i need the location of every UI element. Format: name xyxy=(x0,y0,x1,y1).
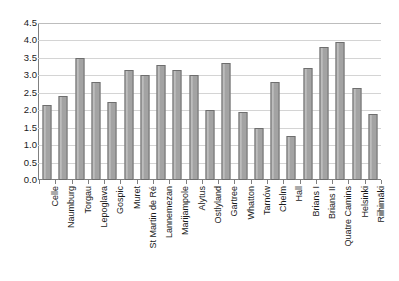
x-axis-tick xyxy=(39,180,40,184)
x-axis-tick-label: Gartree xyxy=(230,186,239,217)
x-axis-tick-label: Tarnów xyxy=(263,186,272,215)
y-axis-tick-label: 0.0 xyxy=(3,175,37,185)
x-axis-tick-label: Ostlyland xyxy=(214,186,223,224)
bar[interactable] xyxy=(368,114,377,180)
x-axis-tick xyxy=(332,180,333,184)
bar-slot xyxy=(218,23,234,180)
bar[interactable] xyxy=(205,110,214,180)
x-axis-tick-label: Riihimäki xyxy=(377,186,386,223)
bar-slot xyxy=(186,23,202,180)
bar[interactable] xyxy=(75,58,84,180)
x-axis-tick-label: Lepoglava xyxy=(100,186,109,228)
x-axis-tick-labels: CelleNaumburgTorgauLepoglavaGospicMuretS… xyxy=(39,186,381,281)
bar-slot xyxy=(39,23,55,180)
bar[interactable] xyxy=(108,102,117,181)
x-axis-tick xyxy=(218,180,219,184)
x-axis-tick-label-text: Hall xyxy=(295,186,304,202)
x-axis-tick-label-text: Helsinki xyxy=(361,186,370,218)
x-axis-tick xyxy=(365,180,366,184)
bar[interactable] xyxy=(91,82,100,180)
bar-slot xyxy=(300,23,316,180)
x-axis-tick-label-text: Quatre Camins xyxy=(344,186,353,247)
bar[interactable] xyxy=(173,70,182,180)
x-axis-tick-label-text: St Martin de Ré xyxy=(149,186,158,249)
bar-slot xyxy=(234,23,250,180)
x-axis-tick-label: Quatre Camins xyxy=(344,186,353,247)
bars-layer xyxy=(39,23,381,180)
x-axis-tick xyxy=(120,180,121,184)
x-axis-tick xyxy=(169,180,170,184)
x-axis-tick-label-text: Gospic xyxy=(116,186,125,214)
x-axis-tick-label: Helsinki xyxy=(361,186,370,218)
y-axis-tick-label: 3.0 xyxy=(3,71,37,81)
x-axis-tick-label: Marijampole xyxy=(181,186,190,235)
bar[interactable] xyxy=(124,70,133,180)
x-axis-tick-label-text: Ostlyland xyxy=(214,186,223,224)
x-axis-tick xyxy=(283,180,284,184)
bar[interactable] xyxy=(43,105,52,180)
bar-slot xyxy=(104,23,120,180)
x-axis-tick xyxy=(186,180,187,184)
bar-slot xyxy=(55,23,71,180)
x-axis-tick-label: Celle xyxy=(51,186,60,207)
bar[interactable] xyxy=(287,136,296,180)
bar-slot xyxy=(120,23,136,180)
bar-chart: 0.00.51.01.52.02.53.03.54.04.5 CelleNaum… xyxy=(0,0,399,281)
y-axis-tick-label: 1.5 xyxy=(3,123,37,133)
x-axis-tick-label-text: Lannemezan xyxy=(165,186,174,238)
bar[interactable] xyxy=(352,88,361,180)
bar[interactable] xyxy=(222,63,231,180)
x-axis-tick xyxy=(267,180,268,184)
x-axis-tick-label: Lannemezan xyxy=(165,186,174,238)
x-axis-tick xyxy=(55,180,56,184)
x-axis-tick-label-text: Chelm xyxy=(279,186,288,212)
x-axis-tick-label-text: Whatton xyxy=(247,186,256,220)
x-axis-tick-label: Hall xyxy=(295,186,304,202)
x-axis-tick-label-text: Riihimäki xyxy=(377,186,386,223)
y-axis-tick-label: 4.5 xyxy=(3,18,37,28)
x-axis-tick-label-text: Brians II xyxy=(328,186,337,219)
x-axis-tick-label-text: Torgau xyxy=(84,186,93,214)
x-axis-tick xyxy=(381,180,382,184)
x-axis-tick-label-text: Marijampole xyxy=(181,186,190,235)
bar-slot xyxy=(251,23,267,180)
x-axis-tick-label: Brians II xyxy=(328,186,337,219)
x-axis-tick xyxy=(72,180,73,184)
y-axis-tick-label: 2.0 xyxy=(3,105,37,115)
bar[interactable] xyxy=(157,65,166,180)
bar-slot xyxy=(365,23,381,180)
bar[interactable] xyxy=(271,82,280,180)
x-axis-tick xyxy=(88,180,89,184)
x-axis-tick-label-text: Gartree xyxy=(230,186,239,217)
bar[interactable] xyxy=(254,128,263,180)
bar-slot xyxy=(202,23,218,180)
y-axis-tick-label: 2.5 xyxy=(3,88,37,98)
bar[interactable] xyxy=(336,42,345,180)
bar-slot xyxy=(283,23,299,180)
x-axis-tick xyxy=(137,180,138,184)
x-axis-tick xyxy=(202,180,203,184)
x-axis-tick xyxy=(153,180,154,184)
bar-slot xyxy=(332,23,348,180)
x-axis-tick xyxy=(251,180,252,184)
x-axis-tick xyxy=(348,180,349,184)
x-axis-tick-label-text: Naumburg xyxy=(67,186,76,228)
bar[interactable] xyxy=(59,96,68,180)
bar[interactable] xyxy=(140,75,149,180)
x-axis-tick xyxy=(104,180,105,184)
bar[interactable] xyxy=(319,47,328,180)
bar-slot xyxy=(169,23,185,180)
bar[interactable] xyxy=(303,68,312,180)
bar[interactable] xyxy=(238,112,247,180)
x-axis-tick-label: Whatton xyxy=(247,186,256,220)
x-axis-tick-label-text: Brians I xyxy=(312,186,321,217)
x-axis-tick xyxy=(316,180,317,184)
x-axis-tick-label: St Martin de Ré xyxy=(149,186,158,249)
bar[interactable] xyxy=(189,75,198,180)
bar-slot xyxy=(137,23,153,180)
y-axis-tick-label: 0.5 xyxy=(3,158,37,168)
x-axis-tick-label-text: Lepoglava xyxy=(100,186,109,228)
bar-slot xyxy=(267,23,283,180)
y-axis-tick-label: 1.0 xyxy=(3,140,37,150)
x-axis-tick-label-text: Alytus xyxy=(198,186,207,211)
